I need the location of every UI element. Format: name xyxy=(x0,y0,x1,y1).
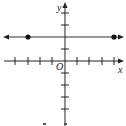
line-right-arrow-icon xyxy=(118,35,124,40)
cropped-artifacts xyxy=(43,123,67,125)
coordinate-plane: x y O xyxy=(0,0,126,126)
line-left-arrow-icon xyxy=(3,35,9,40)
y-axis-label: y xyxy=(56,2,62,13)
horizontal-line xyxy=(3,34,124,39)
x-axis-arrow-icon xyxy=(118,59,124,64)
origin-label: O xyxy=(56,61,63,72)
point-right xyxy=(111,34,116,39)
x-axis-label: x xyxy=(117,64,123,75)
point-left xyxy=(25,34,30,39)
y-axis-arrow-icon xyxy=(63,2,68,8)
x-axis: x xyxy=(4,57,124,75)
